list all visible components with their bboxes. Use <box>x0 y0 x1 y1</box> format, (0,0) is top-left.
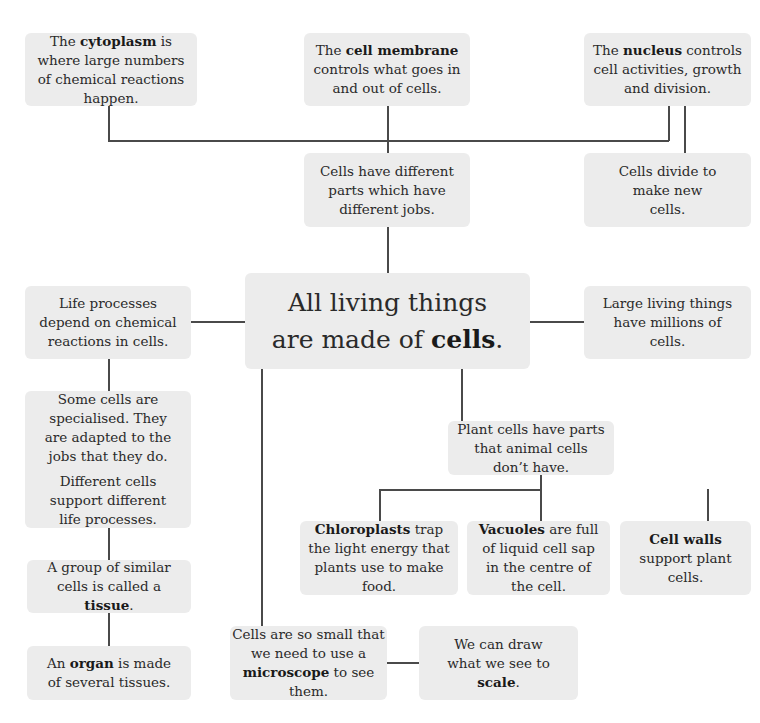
node-cells-divide: Cells divide to make new cells. <box>584 153 751 227</box>
node-vacuoles: Vacuoles are full of liquid cell sap in … <box>467 521 610 595</box>
keyword-microscope: microscope <box>243 664 330 680</box>
keyword-cytoplasm: cytoplasm <box>80 33 157 49</box>
connector-line <box>387 662 419 664</box>
node-different-parts: Cells have different parts which have di… <box>304 153 470 227</box>
keyword-tissue: tissue <box>84 597 129 613</box>
connector-line <box>379 489 381 521</box>
node-cell-membrane: The cell membrane controls what goes in … <box>304 33 470 106</box>
node-plant-cells: Plant cells have parts that animal cells… <box>448 421 614 475</box>
node-life-processes: Life processes depend on chemical reacti… <box>25 286 191 359</box>
node-scale: We can draw what we see to scale. <box>419 626 578 700</box>
node-chloroplasts: Chloroplasts trap the light energy that … <box>300 521 458 595</box>
connector-line <box>540 475 542 521</box>
keyword-cells: cells <box>431 325 495 354</box>
connector-line <box>108 613 110 646</box>
connector-line <box>108 106 110 141</box>
node-nucleus: The nucleus controls cell activities, gr… <box>584 33 751 106</box>
node-cell-walls: Cell walls support plant cells. <box>620 521 751 595</box>
node-tissue: A group of similar cells is called a tis… <box>27 560 191 613</box>
connector-line <box>461 369 463 421</box>
connector-line <box>261 369 263 626</box>
node-specialised: Some cells are specialised. They are ada… <box>25 391 191 528</box>
connector-line <box>108 140 669 142</box>
connector-line <box>387 106 389 153</box>
keyword-cell-walls: Cell walls <box>649 531 722 547</box>
connector-line <box>530 321 584 323</box>
keyword-cell-membrane: cell membrane <box>346 42 459 58</box>
node-cytoplasm: The cytoplasm is where large numbers of … <box>25 33 197 106</box>
connector-line <box>108 528 110 560</box>
node-microscope: Cells are so small that we need to use a… <box>230 626 387 700</box>
connector-line <box>387 227 389 273</box>
connector-line <box>668 106 670 141</box>
connector-line <box>684 106 686 153</box>
connector-line <box>379 489 540 491</box>
connector-line <box>108 359 110 391</box>
keyword-chloroplasts: Chloroplasts <box>315 521 411 537</box>
central-node: All living thingsare made of cells. <box>245 273 530 369</box>
node-large-living-things: Large living things have millions of cel… <box>584 286 751 359</box>
connector-line <box>191 321 245 323</box>
connector-line <box>707 489 709 521</box>
keyword-vacuoles: Vacuoles <box>479 521 545 537</box>
keyword-scale: scale <box>477 674 515 690</box>
keyword-organ: organ <box>70 655 114 671</box>
node-organ: An organ is made of several tissues. <box>27 646 191 700</box>
keyword-nucleus: nucleus <box>623 42 682 58</box>
